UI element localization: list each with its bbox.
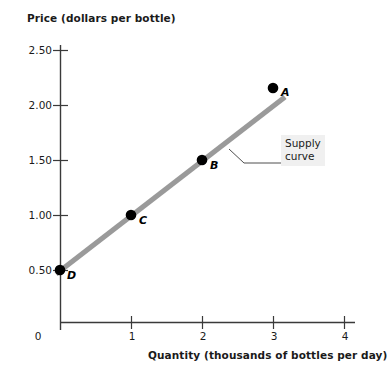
x-tick-label-3: 3 [264, 330, 284, 342]
x-tick-label-4: 4 [335, 330, 355, 342]
data-point-label-c: C [139, 214, 147, 227]
data-point-b [197, 155, 208, 166]
data-point-d [55, 265, 66, 276]
supply-curve-annotation-line2: curve [285, 150, 321, 163]
x-axis-title: Quantity (thousands of bottles per day) [148, 349, 387, 361]
supply-curve-annotation: Supply curve [281, 135, 325, 166]
data-point-a [268, 83, 279, 94]
x-tick-label-0: 0 [28, 330, 48, 342]
data-point-label-d: D [67, 269, 76, 282]
y-tick-label-0-50: 0.50 [18, 264, 52, 276]
x-tick-label-2: 2 [193, 330, 213, 342]
data-point-c [126, 210, 137, 221]
data-point-label-b: B [210, 159, 218, 172]
x-tick-label-1: 1 [122, 330, 142, 342]
y-tick-label-1-50: 1.50 [18, 154, 52, 166]
data-point-label-a: A [281, 86, 290, 99]
y-tick-label-2-50: 2.50 [18, 44, 52, 56]
supply-curve-annotation-line1: Supply [285, 137, 321, 150]
y-tick-label-1-00: 1.00 [18, 209, 52, 221]
supply-curve-leader-line [229, 149, 281, 163]
supply-curve-line [56, 97, 285, 274]
y-tick-label-2-00: 2.00 [18, 99, 52, 111]
